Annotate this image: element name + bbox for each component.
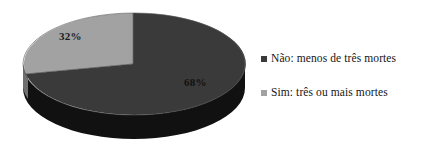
chart-legend: Não: menos de três mortes Sim: três ou m…	[261, 50, 429, 118]
slice-label-nao: 68%	[184, 76, 207, 88]
pie-chart-graphic: 32% 68%	[0, 0, 260, 150]
legend-label-sim: Sim: três ou mais mortes	[271, 86, 388, 98]
slice-label-sim: 32%	[59, 30, 82, 42]
pie-svg	[0, 0, 260, 150]
light-slice-top	[24, 13, 133, 74]
legend-swatch-icon-nao	[261, 56, 267, 62]
legend-item-sim[interactable]: Sim: três ou mais mortes	[261, 84, 429, 100]
legend-label-nao: Não: menos de três mortes	[271, 52, 396, 64]
legend-item-nao[interactable]: Não: menos de três mortes	[261, 50, 429, 66]
pie-chart-figure: 32% 68% Não: menos de três mortes Sim: t…	[0, 0, 429, 150]
legend-swatch-icon-sim	[261, 90, 267, 96]
